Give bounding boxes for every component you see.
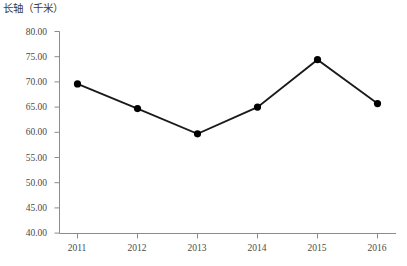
data-point [374,100,381,107]
y-tick-label: 55.00 [5,153,47,163]
y-tick-label: 50.00 [5,178,47,188]
y-tick-label: 75.00 [5,52,47,62]
data-line-series [78,60,378,134]
y-tick-label: 65.00 [5,102,47,112]
y-axis-ticks [55,32,60,234]
x-tick-label-2013: 2013 [175,243,219,253]
data-point [314,56,321,63]
data-point [254,104,261,111]
data-point [134,105,141,112]
x-tick-label-2011: 2011 [55,243,99,253]
y-tick-label: 70.00 [5,77,47,87]
x-axis-ticks [78,234,378,239]
x-tick-label-2014: 2014 [235,243,279,253]
y-tick-label: 40.00 [5,228,47,238]
x-tick-label-2015: 2015 [295,243,339,253]
data-point [194,130,201,137]
line-chart: 长轴（千米） 80.00 75.00 70.00 [0,0,407,266]
data-point [74,80,81,87]
y-tick-label: 80.00 [5,27,47,37]
data-point-markers [74,56,381,137]
x-tick-label-2016: 2016 [355,243,399,253]
y-tick-label: 45.00 [5,203,47,213]
x-tick-label-2012: 2012 [115,243,159,253]
chart-axes [60,32,397,234]
y-tick-label: 60.00 [5,127,47,137]
plot-area [0,0,407,266]
